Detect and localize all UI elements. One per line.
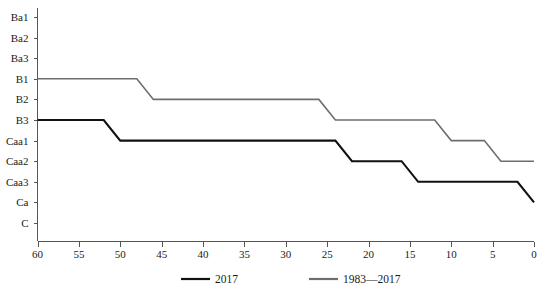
- x-axis-label-50: 50: [115, 248, 127, 260]
- x-axis-label-35: 35: [239, 248, 251, 260]
- x-axis-label-60: 60: [32, 248, 44, 260]
- y-axis-label-ba1: Ba1: [11, 11, 29, 23]
- x-axis-label-15: 15: [404, 248, 416, 260]
- chart-container: Ba1Ba2Ba3B1B2B3Caa1Caa2Caa3CaC 605550454…: [0, 0, 546, 295]
- x-axis-label-10: 10: [446, 248, 458, 260]
- x-axis-label-30: 30: [280, 248, 292, 260]
- y-axis-label-c: C: [21, 217, 28, 229]
- legend-label-2017: 2017: [215, 273, 238, 285]
- y-axis-label-b3: B3: [16, 114, 29, 126]
- y-axis-label-caa3: Caa3: [6, 176, 29, 188]
- x-axis-label-0: 0: [531, 248, 537, 260]
- y-axis-label-b1: B1: [16, 73, 29, 85]
- x-axis-label-55: 55: [73, 248, 85, 260]
- y-axis-label-ba3: Ba3: [11, 52, 29, 64]
- y-axis-label-ca: Ca: [16, 196, 28, 208]
- x-axis-label-45: 45: [156, 248, 168, 260]
- y-axis-label-caa1: Caa1: [6, 135, 29, 147]
- x-axis-label-20: 20: [363, 248, 375, 260]
- y-axis-label-ba2: Ba2: [11, 32, 29, 44]
- x-axis-label-25: 25: [322, 248, 334, 260]
- chart-plot: Ba1Ba2Ba3B1B2B3Caa1Caa2Caa3CaC 605550454…: [0, 0, 546, 295]
- x-axis-label-40: 40: [198, 248, 210, 260]
- x-axis-label-5: 5: [490, 248, 496, 260]
- legend-label-1983-2017: 1983—2017: [343, 273, 401, 285]
- y-axis-label-b2: B2: [16, 93, 29, 105]
- y-axis-label-caa2: Caa2: [6, 155, 29, 167]
